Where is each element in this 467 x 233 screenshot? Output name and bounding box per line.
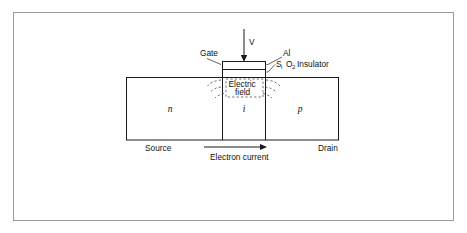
- insulator-element-sub-label: i: [281, 64, 282, 70]
- region-n-label: n: [168, 104, 173, 114]
- source-label: Source: [145, 143, 172, 153]
- aluminum-label: Al: [283, 48, 291, 58]
- insulator-word-label: Insulator: [297, 59, 329, 69]
- mosfet-diagram: V Gate Al S i O 2 Insulator Electric fie…: [0, 0, 467, 233]
- electric-field-label-line2: field: [235, 87, 251, 97]
- drain-label: Drain: [318, 143, 338, 153]
- figure-root: V Gate Al S i O 2 Insulator Electric fie…: [0, 0, 467, 233]
- region-p-label: p: [297, 104, 303, 114]
- voltage-label: V: [249, 37, 255, 47]
- gate-label: Gate: [200, 48, 218, 58]
- region-i-label: i: [243, 104, 246, 114]
- electron-current-label: Electron current: [210, 152, 269, 162]
